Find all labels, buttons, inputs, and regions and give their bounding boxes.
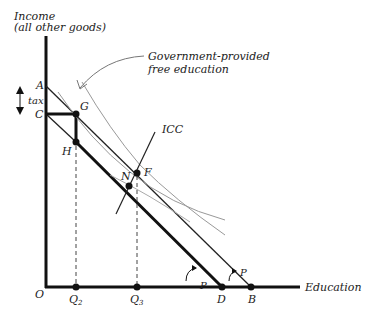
- label-B: B: [247, 293, 256, 306]
- label-Q3: Q3: [130, 293, 144, 307]
- label-F: F: [143, 166, 152, 179]
- label-D: D: [216, 293, 226, 306]
- label-P1: P: [199, 280, 207, 291]
- point-H: [73, 139, 80, 146]
- rotation-arrow-1-head: [192, 265, 197, 271]
- rotation-arrow-1: [186, 268, 196, 281]
- budget-line-CH: [46, 114, 76, 142]
- label-H: H: [61, 145, 72, 158]
- education-diagram: Income (all other goods) Education O Gov…: [0, 0, 369, 316]
- y-axis-label-line2: (all other goods): [14, 21, 106, 34]
- label-A: A: [35, 79, 44, 92]
- label-P2: P: [239, 267, 247, 278]
- point-Q2: [73, 284, 80, 291]
- point-N: [126, 183, 133, 190]
- point-D: [219, 284, 226, 291]
- tax-arrow-down-icon: [16, 107, 24, 115]
- point-F: [134, 170, 141, 177]
- origin-label: O: [35, 288, 44, 301]
- point-G: [73, 111, 80, 118]
- annotation-line1: Government-provided: [148, 50, 270, 63]
- label-G: G: [80, 100, 89, 113]
- tax-arrow-up-icon: [16, 86, 24, 94]
- indifference-curve-2: [82, 82, 225, 235]
- annotation-arrow: [80, 56, 144, 88]
- label-Q2: Q2: [69, 293, 83, 307]
- label-ICC: ICC: [161, 123, 184, 136]
- x-axis-label: Education: [304, 281, 362, 294]
- point-B: [248, 284, 255, 291]
- label-tax: tax: [28, 95, 44, 106]
- label-N: N: [120, 170, 131, 183]
- label-C: C: [35, 108, 44, 121]
- point-Q3: [134, 284, 141, 291]
- annotation-line2: free education: [147, 63, 229, 76]
- budget-line-HD: [76, 142, 222, 287]
